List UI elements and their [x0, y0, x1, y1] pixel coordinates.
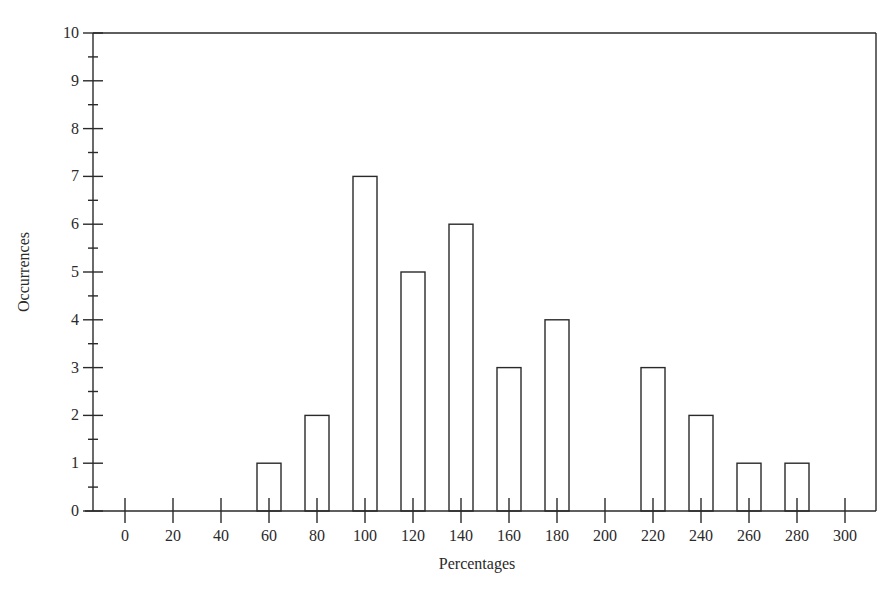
y-tick-label: 5 [71, 263, 79, 280]
bars-group [257, 176, 809, 511]
x-tick-label: 300 [833, 527, 857, 544]
y-tick-label: 6 [71, 215, 79, 232]
x-tick-label: 60 [261, 527, 277, 544]
x-tick-label: 240 [689, 527, 713, 544]
y-tick-label: 9 [71, 72, 79, 89]
bar-180 [545, 320, 569, 511]
y-tick-label: 1 [71, 454, 79, 471]
bar-240 [689, 415, 713, 511]
bar-140 [449, 224, 473, 511]
y-tick-label: 10 [63, 24, 79, 41]
y-tick-label: 0 [71, 502, 79, 519]
y-tick-label: 4 [71, 311, 79, 328]
y-tick-label: 3 [71, 359, 79, 376]
bar-80 [305, 415, 329, 511]
x-tick-label: 180 [545, 527, 569, 544]
histogram-chart: 012345678910 020406080100120140160180200… [0, 0, 891, 589]
bar-100 [353, 176, 377, 511]
x-tick-label: 280 [785, 527, 809, 544]
x-axis-title: Percentages [439, 555, 515, 573]
x-tick-label: 100 [353, 527, 377, 544]
x-tick-label: 160 [497, 527, 521, 544]
x-tick-label: 220 [641, 527, 665, 544]
x-tick-label: 140 [449, 527, 473, 544]
x-tick-label: 260 [737, 527, 761, 544]
y-tick-label: 8 [71, 120, 79, 137]
x-tick-label: 80 [309, 527, 325, 544]
x-tick-label: 200 [593, 527, 617, 544]
y-axis-title: Occurrences [15, 232, 32, 312]
plot-frame [93, 33, 876, 511]
x-tick-label: 40 [213, 527, 229, 544]
bar-120 [401, 272, 425, 511]
x-tick-label: 20 [165, 527, 181, 544]
y-axis: 012345678910 [63, 24, 103, 519]
y-tick-label: 7 [71, 167, 79, 184]
x-tick-label: 0 [121, 527, 129, 544]
y-tick-label: 2 [71, 406, 79, 423]
bar-160 [497, 368, 521, 511]
x-tick-label: 120 [401, 527, 425, 544]
bar-220 [641, 368, 665, 511]
